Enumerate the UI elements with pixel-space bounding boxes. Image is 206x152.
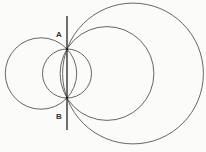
- point-label-b: B: [56, 112, 62, 121]
- point-b: [66, 97, 69, 100]
- medium-circle: [60, 27, 154, 121]
- point-a: [66, 48, 69, 51]
- diagram-canvas: [0, 0, 206, 152]
- diagram: A B: [0, 0, 206, 152]
- point-label-a: A: [56, 30, 62, 39]
- large-circle: [63, 3, 204, 144]
